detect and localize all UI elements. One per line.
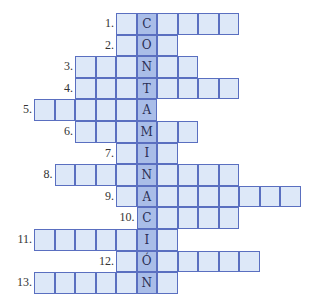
crossword-grid: 1.C2.O3.N4.T5.A6.M7.I8.N9.A10.C11.I12.Ó1… [0, 0, 316, 308]
answer-cell[interactable] [116, 164, 137, 186]
answer-cell[interactable] [55, 164, 76, 186]
answer-cell[interactable] [157, 78, 178, 100]
answer-cell[interactable] [157, 272, 178, 294]
answer-cell[interactable] [75, 121, 96, 143]
answer-cell[interactable] [34, 99, 55, 121]
answer-cell[interactable] [198, 13, 219, 35]
clue-number: 13. [6, 275, 32, 290]
hidden-word-cell: N [137, 272, 158, 294]
clue-number: 6. [47, 124, 73, 139]
answer-cell[interactable] [116, 13, 137, 35]
hidden-word-cell: I [137, 229, 158, 251]
answer-cell[interactable] [34, 272, 55, 294]
hidden-word-cell: A [137, 99, 158, 121]
answer-cell[interactable] [96, 78, 117, 100]
answer-cell[interactable] [157, 251, 178, 273]
answer-cell[interactable] [178, 121, 199, 143]
hidden-word-cell: O [137, 35, 158, 57]
clue-number: 1. [88, 16, 114, 31]
answer-cell[interactable] [116, 99, 137, 121]
answer-cell[interactable] [75, 56, 96, 78]
clue-number: 2. [88, 38, 114, 53]
answer-cell[interactable] [96, 164, 117, 186]
answer-cell[interactable] [116, 229, 137, 251]
answer-cell[interactable] [116, 186, 137, 208]
answer-cell[interactable] [116, 272, 137, 294]
answer-cell[interactable] [178, 56, 199, 78]
clue-number: 7. [88, 146, 114, 161]
answer-cell[interactable] [116, 56, 137, 78]
answer-cell[interactable] [157, 207, 178, 229]
answer-cell[interactable] [198, 251, 219, 273]
clue-number: 3. [47, 59, 73, 74]
answer-cell[interactable] [178, 251, 199, 273]
answer-cell[interactable] [219, 207, 240, 229]
answer-cell[interactable] [116, 78, 137, 100]
answer-cell[interactable] [96, 272, 117, 294]
answer-cell[interactable] [75, 78, 96, 100]
answer-cell[interactable] [198, 164, 219, 186]
answer-cell[interactable] [178, 207, 199, 229]
answer-cell[interactable] [116, 121, 137, 143]
answer-cell[interactable] [75, 229, 96, 251]
clue-number: 5. [6, 102, 32, 117]
answer-cell[interactable] [55, 229, 76, 251]
clue-number: 8. [27, 167, 53, 182]
clue-number: 10. [109, 210, 135, 225]
clue-number: 9. [88, 189, 114, 204]
answer-cell[interactable] [96, 121, 117, 143]
answer-cell[interactable] [178, 13, 199, 35]
answer-cell[interactable] [75, 99, 96, 121]
answer-cell[interactable] [157, 143, 178, 165]
answer-cell[interactable] [75, 164, 96, 186]
answer-cell[interactable] [157, 186, 178, 208]
answer-cell[interactable] [96, 99, 117, 121]
answer-cell[interactable] [198, 78, 219, 100]
answer-cell[interactable] [178, 186, 199, 208]
answer-cell[interactable] [96, 229, 117, 251]
answer-cell[interactable] [34, 229, 55, 251]
hidden-word-cell: C [137, 13, 158, 35]
answer-cell[interactable] [198, 207, 219, 229]
answer-cell[interactable] [55, 99, 76, 121]
answer-cell[interactable] [219, 164, 240, 186]
answer-cell[interactable] [178, 78, 199, 100]
answer-cell[interactable] [55, 272, 76, 294]
answer-cell[interactable] [157, 35, 178, 57]
hidden-word-cell: N [137, 56, 158, 78]
answer-cell[interactable] [239, 186, 260, 208]
answer-cell[interactable] [219, 78, 240, 100]
clue-number: 4. [47, 81, 73, 96]
answer-cell[interactable] [157, 56, 178, 78]
hidden-word-cell: Ó [137, 251, 158, 273]
answer-cell[interactable] [157, 13, 178, 35]
hidden-word-cell: M [137, 121, 158, 143]
answer-cell[interactable] [219, 186, 240, 208]
hidden-word-cell: N [137, 164, 158, 186]
answer-cell[interactable] [157, 229, 178, 251]
answer-cell[interactable] [157, 164, 178, 186]
answer-cell[interactable] [219, 13, 240, 35]
answer-cell[interactable] [239, 251, 260, 273]
answer-cell[interactable] [116, 35, 137, 57]
answer-cell[interactable] [96, 56, 117, 78]
hidden-word-cell: C [137, 207, 158, 229]
answer-cell[interactable] [116, 251, 137, 273]
answer-cell[interactable] [280, 186, 301, 208]
answer-cell[interactable] [219, 251, 240, 273]
answer-cell[interactable] [198, 186, 219, 208]
hidden-word-cell: I [137, 143, 158, 165]
clue-number: 11. [6, 232, 32, 247]
answer-cell[interactable] [116, 143, 137, 165]
answer-cell[interactable] [260, 186, 281, 208]
hidden-word-cell: A [137, 186, 158, 208]
hidden-word-cell: T [137, 78, 158, 100]
answer-cell[interactable] [75, 272, 96, 294]
answer-cell[interactable] [157, 121, 178, 143]
clue-number: 12. [88, 254, 114, 269]
answer-cell[interactable] [178, 164, 199, 186]
